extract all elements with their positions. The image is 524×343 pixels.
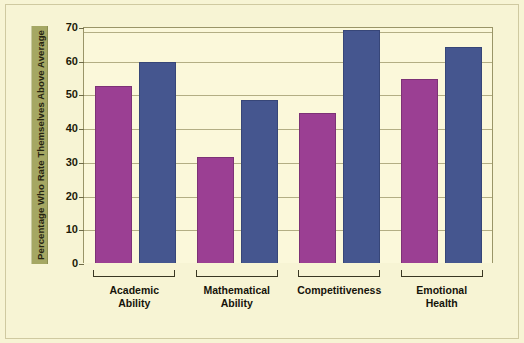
y-axis-title-band: Percentage Who Rate Themselves Above Ave…	[31, 26, 48, 264]
plot-area	[83, 27, 493, 263]
y-axis-title: Percentage Who Rate Themselves Above Ave…	[34, 30, 45, 260]
category-bracket	[93, 270, 175, 277]
bar	[139, 62, 176, 263]
category-label: Emotional Health	[416, 284, 467, 310]
bar-group	[186, 28, 288, 263]
category-label: Academic Ability	[109, 284, 159, 310]
y-axis-tick-label: 30	[52, 156, 78, 168]
bar	[401, 79, 438, 263]
category-label: Mathematical Ability	[203, 284, 270, 310]
bar-group	[288, 28, 390, 263]
bar	[299, 113, 336, 263]
bar-group	[84, 28, 186, 263]
category-bracket	[298, 270, 380, 277]
y-axis-tick-label: 50	[52, 88, 78, 100]
bar	[241, 100, 278, 264]
category-tick: Academic Ability	[83, 264, 186, 326]
bar	[197, 157, 234, 263]
category-tick: Competitiveness	[288, 264, 391, 326]
bar-groups	[84, 28, 492, 263]
bar-group	[390, 28, 492, 263]
category-tick: Mathematical Ability	[186, 264, 289, 326]
category-bracket	[401, 270, 483, 277]
category-axis: Academic AbilityMathematical AbilityComp…	[83, 264, 493, 326]
bar	[95, 86, 132, 263]
chart-figure: Percentage Who Rate Themselves Above Ave…	[0, 0, 524, 343]
category-tick: Emotional Health	[391, 264, 494, 326]
bar	[445, 47, 482, 263]
bar	[343, 30, 380, 263]
category-bracket	[196, 270, 278, 277]
y-axis-tick-labels: 706050403020100	[52, 24, 78, 268]
y-axis-tick-label: 40	[52, 122, 78, 134]
y-axis-tick-label: 10	[52, 223, 78, 235]
category-label: Competitiveness	[297, 284, 381, 297]
y-axis-tick-label: 70	[52, 21, 78, 33]
y-axis-tick-label: 60	[52, 55, 78, 67]
y-axis-tick-label: 20	[52, 190, 78, 202]
y-axis-tick-label: 0	[52, 257, 78, 269]
